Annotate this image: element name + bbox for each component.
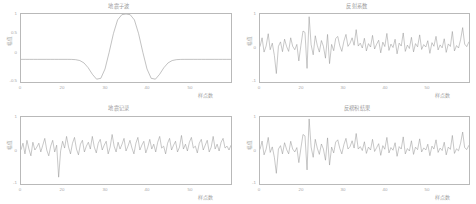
panel-seismic-record: 地震记录 幅值 1 0 -1 0 20 30 40 50 样点数	[0, 102, 238, 204]
seismic-record-trace	[21, 117, 231, 184]
y-tick: 1	[8, 114, 17, 119]
panel-title: 地震记录	[0, 105, 238, 111]
x-axis-label: 样点数	[435, 91, 450, 98]
plot-area	[20, 116, 232, 185]
reflection-coefficient-trace	[260, 14, 469, 82]
y-tick: 1	[8, 11, 17, 16]
x-tick: 0	[253, 187, 265, 192]
plot-area	[259, 13, 470, 83]
x-tick: 30	[99, 187, 111, 192]
x-tick: 40	[141, 187, 153, 192]
x-tick: 30	[337, 187, 349, 192]
x-axis-label: 样点数	[435, 193, 450, 200]
y-tick: -1	[6, 180, 17, 185]
panel-deconvolution-result: 反褶积结果 幅值 1 0 -1 0 20 30 40 50 样点数	[238, 102, 476, 204]
figure-canvas: 地震子波 幅值 1 0.5 0 -0.5 0 20 30 40 50 样点数 反…	[0, 0, 476, 204]
y-tick: 0.5	[8, 30, 17, 35]
x-tick: 20	[56, 187, 68, 192]
x-tick: 20	[295, 85, 307, 90]
y-tick: 1	[247, 11, 256, 16]
x-tick: 20	[56, 85, 68, 90]
panel-title: 地震子波	[0, 3, 238, 9]
plot-area	[259, 116, 470, 185]
x-tick: 50	[421, 85, 433, 90]
y-tick: 1	[247, 114, 256, 119]
x-tick: 50	[184, 187, 196, 192]
y-tick: 0	[247, 148, 256, 153]
y-tick: -1	[245, 180, 256, 185]
x-tick: 30	[99, 85, 111, 90]
y-axis-label: 幅值	[6, 36, 12, 46]
y-tick: -0.5	[8, 78, 17, 83]
x-tick: 0	[14, 85, 26, 90]
x-tick: 40	[379, 85, 391, 90]
x-tick: 50	[421, 187, 433, 192]
x-tick: 0	[14, 187, 26, 192]
x-tick: 40	[141, 85, 153, 90]
x-tick: 20	[295, 187, 307, 192]
y-tick: 0	[8, 50, 17, 55]
y-tick: 0	[8, 148, 17, 153]
x-tick: 40	[379, 187, 391, 192]
x-tick: 0	[253, 85, 265, 90]
panel-ricker-wavelet: 地震子波 幅值 1 0.5 0 -0.5 0 20 30 40 50 样点数	[0, 0, 238, 102]
deconvolution-result-trace	[260, 117, 469, 184]
y-tick: 0	[247, 45, 256, 50]
y-tick: -1	[245, 78, 256, 83]
x-axis-label: 样点数	[198, 91, 213, 98]
panel-title: 反褶积结果	[238, 105, 476, 111]
x-tick: 30	[337, 85, 349, 90]
x-tick: 50	[184, 85, 196, 90]
ricker-wavelet-curve	[21, 14, 231, 82]
plot-area	[20, 13, 232, 83]
x-axis-label: 样点数	[198, 193, 213, 200]
panel-title: 反射系数	[238, 3, 476, 9]
panel-reflection-coefficient: 反射系数 幅值 1 0 -1 0 20 30 40 50 样点数	[238, 0, 476, 102]
